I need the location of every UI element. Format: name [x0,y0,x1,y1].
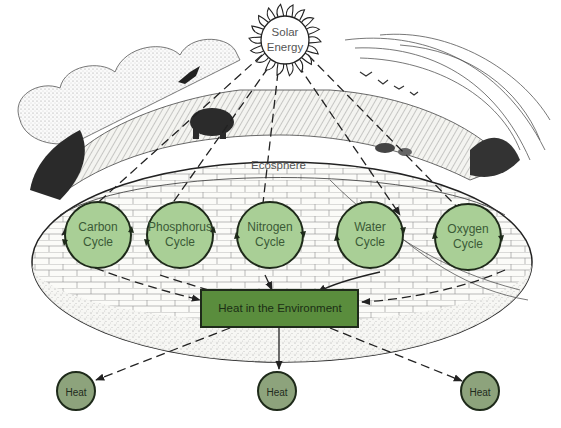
heat-environment-box [201,290,358,327]
ecosphere-energy-flow-diagram: Solar Energy Ecosphere Carbon Cycle Phos… [0,0,561,428]
sun-icon [249,4,321,75]
heat-circles [57,372,499,410]
